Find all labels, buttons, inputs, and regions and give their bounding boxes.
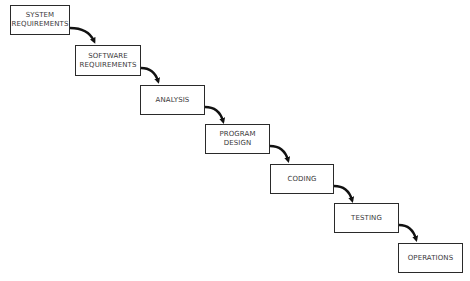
arrow-6-icon (399, 225, 416, 239)
step-testing: TESTING (334, 203, 399, 233)
step-label: PROGRAM DESIGN (219, 130, 255, 148)
arrow-1-icon (70, 28, 94, 41)
step-label: SYSTEM REQUIREMENTS (12, 11, 69, 29)
step-coding: CODING (270, 164, 334, 194)
step-label: SOFTWARE REQUIREMENTS (80, 52, 137, 70)
step-operations: OPERATIONS (398, 243, 463, 273)
arrow-4-icon (270, 146, 288, 160)
arrow-2-icon (141, 68, 158, 81)
step-label: OPERATIONS (408, 254, 454, 263)
arrow-5-icon (334, 186, 352, 200)
step-program-design: PROGRAM DESIGN (205, 124, 270, 154)
waterfall-diagram: SYSTEM REQUIREMENTS SOFTWARE REQUIREMENT… (0, 0, 470, 281)
step-label: TESTING (351, 214, 382, 223)
step-label: ANALYSIS (156, 96, 190, 105)
step-label: CODING (287, 175, 316, 184)
step-analysis: ANALYSIS (140, 85, 205, 115)
arrow-3-icon (205, 107, 223, 121)
step-system-requirements: SYSTEM REQUIREMENTS (10, 5, 70, 35)
step-software-requirements: SOFTWARE REQUIREMENTS (75, 45, 141, 76)
